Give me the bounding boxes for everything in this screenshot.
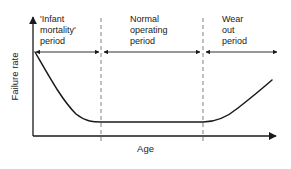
phase-label-wear-out: Wear out period	[222, 14, 247, 48]
failure-rate-curve	[35, 52, 272, 122]
phase-label-infant-mortality: 'Infant mortality' period	[40, 14, 76, 48]
phase-label-normal-operating: Normal operating period	[130, 14, 168, 48]
x-axis-label: Age	[0, 143, 291, 154]
bathtub-curve-figure: 'Infant mortality' period Normal operati…	[0, 0, 291, 169]
y-axis-label: Failure rate	[9, 27, 20, 127]
